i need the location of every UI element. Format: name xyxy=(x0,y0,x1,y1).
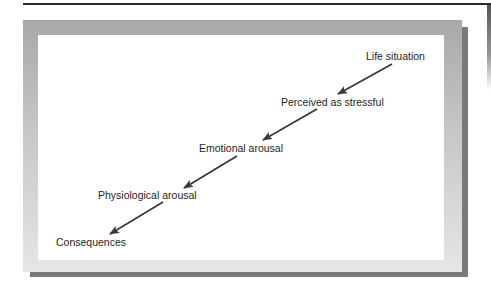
arrow-icon xyxy=(338,64,392,94)
arrow-icon xyxy=(263,109,317,140)
arrows-layer xyxy=(0,0,491,287)
arrow-icon xyxy=(110,202,163,234)
arrow-icon xyxy=(184,156,237,188)
